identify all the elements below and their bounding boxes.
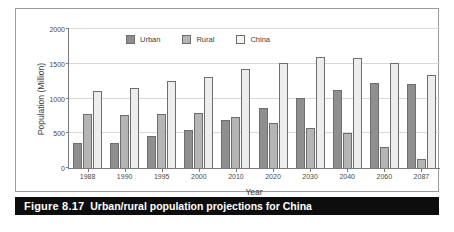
bar-urban-1988 xyxy=(73,143,82,168)
bar-urban-2060 xyxy=(370,83,379,168)
bar-rural-2010 xyxy=(231,117,240,168)
bar-rural-2040 xyxy=(343,133,352,168)
x-tick-mark-2087 xyxy=(421,168,422,172)
x-tick-label-2030: 2030 xyxy=(292,173,329,180)
bar-china-2020 xyxy=(279,63,288,168)
y-tick-label-1000: 1000 xyxy=(49,95,65,102)
bar-urban-2020 xyxy=(259,108,268,168)
bar-rural-1988 xyxy=(83,114,92,168)
bar-groups: 1988199019952000201020202030204020602087 xyxy=(69,29,440,168)
x-tick-label-2040: 2040 xyxy=(329,173,366,180)
caption-title: Urban/rural population projections for C… xyxy=(90,200,312,212)
bar-group-2020: 2020 xyxy=(254,29,291,168)
x-tick-label-2020: 2020 xyxy=(254,173,291,180)
y-tick-label-1500: 1500 xyxy=(49,60,65,67)
y-tick-label-0: 0 xyxy=(61,165,65,172)
x-tick-label-1990: 1990 xyxy=(106,173,143,180)
bar-group-2060: 2060 xyxy=(366,29,403,168)
bar-china-2030 xyxy=(316,57,325,168)
x-tick-label-2087: 2087 xyxy=(403,173,440,180)
bar-china-2087 xyxy=(427,75,436,168)
bar-rural-2060 xyxy=(380,147,389,168)
y-tick-label-2000: 2000 xyxy=(49,26,65,33)
y-axis-title: Population (Million) xyxy=(35,29,47,169)
bar-group-2010: 2010 xyxy=(217,29,254,168)
bar-urban-2010 xyxy=(221,120,230,168)
bar-group-1988: 1988 xyxy=(69,29,106,168)
bar-china-1988 xyxy=(93,91,102,168)
bar-rural-2087 xyxy=(417,159,426,168)
bar-group-2030: 2030 xyxy=(292,29,329,168)
bar-china-2000 xyxy=(204,77,213,168)
plot-area: 0500100015002000 19881990199520002010202… xyxy=(68,29,440,169)
bar-urban-2087 xyxy=(407,84,416,168)
bar-group-1990: 1990 xyxy=(106,29,143,168)
x-tick-mark-2010 xyxy=(236,168,237,172)
x-tick-mark-1990 xyxy=(125,168,126,172)
bar-china-2040 xyxy=(353,58,362,169)
caption-number: Figure 8.17 xyxy=(24,200,84,212)
x-tick-mark-1988 xyxy=(88,168,89,172)
chart-frame: Urban Rural China Population (Million) 0… xyxy=(15,8,439,192)
plot-region: 0500100015002000 19881990199520002010202… xyxy=(68,29,440,169)
bar-group-1995: 1995 xyxy=(143,29,180,168)
bar-urban-1995 xyxy=(147,136,156,168)
bar-china-1995 xyxy=(167,81,176,168)
bar-group-2040: 2040 xyxy=(329,29,366,168)
x-tick-mark-2020 xyxy=(273,168,274,172)
bar-urban-2040 xyxy=(333,90,342,168)
y-tick-label-500: 500 xyxy=(53,130,65,137)
bar-urban-2030 xyxy=(296,98,305,168)
figure-caption: Figure 8.17 Urban/rural population proje… xyxy=(15,197,439,215)
bar-group-2087: 2087 xyxy=(403,29,440,168)
x-tick-mark-2060 xyxy=(384,168,385,172)
x-tick-mark-2040 xyxy=(347,168,348,172)
x-tick-label-2060: 2060 xyxy=(366,173,403,180)
bar-group-2000: 2000 xyxy=(180,29,217,168)
bar-urban-2000 xyxy=(184,130,193,168)
bar-urban-1990 xyxy=(110,143,119,168)
bar-rural-2030 xyxy=(306,128,315,168)
bar-rural-1995 xyxy=(157,114,166,168)
x-axis-title: Year xyxy=(68,187,440,197)
x-tick-mark-2030 xyxy=(310,168,311,172)
y-axis-title-text: Population (Million) xyxy=(36,63,46,135)
x-tick-label-1988: 1988 xyxy=(69,173,106,180)
x-tick-mark-1995 xyxy=(162,168,163,172)
x-tick-mark-2000 xyxy=(199,168,200,172)
x-tick-label-2000: 2000 xyxy=(180,173,217,180)
bar-china-2010 xyxy=(241,69,250,168)
bar-rural-1990 xyxy=(120,115,129,168)
bar-rural-2000 xyxy=(194,113,203,168)
x-tick-label-2010: 2010 xyxy=(217,173,254,180)
x-tick-label-1995: 1995 xyxy=(143,173,180,180)
bar-china-1990 xyxy=(130,88,139,168)
bar-china-2060 xyxy=(390,63,399,168)
bar-rural-2020 xyxy=(269,123,278,168)
figure-container: Urban Rural China Population (Million) 0… xyxy=(0,0,454,232)
